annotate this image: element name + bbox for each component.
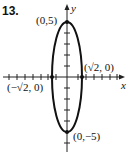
ellipse-graph — [0, 0, 127, 156]
y-axis-arrow-icon — [65, 4, 70, 10]
point-label-bottom: (0,−5) — [73, 131, 100, 142]
x-axis-label: x — [121, 80, 126, 91]
point-label-left: (−√2, 0) — [7, 82, 43, 93]
point-label-top: (0,5) — [36, 15, 57, 26]
point-label-right: (√2, 0) — [84, 62, 114, 73]
y-axis-label: y — [71, 3, 76, 14]
